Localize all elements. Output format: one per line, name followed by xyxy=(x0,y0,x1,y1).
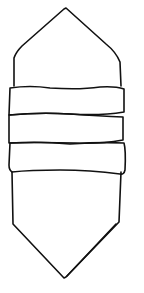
band-1-outline xyxy=(9,87,124,116)
top-cap-outline xyxy=(14,8,121,86)
band-2-outline xyxy=(9,113,123,143)
bottom-right-inner-edge xyxy=(67,224,116,276)
band-3-outline xyxy=(9,142,125,174)
crystal-line-drawing xyxy=(0,0,144,293)
bottom-body-outline xyxy=(12,172,121,278)
